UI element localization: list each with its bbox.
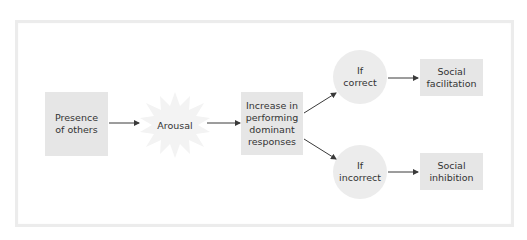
node-presence-line-1: Presence	[55, 112, 98, 124]
node-correct-line-2: correct	[343, 77, 376, 89]
node-increase-line-3: dominant	[249, 124, 294, 136]
node-if-correct: If correct	[333, 50, 387, 104]
node-inhibition-line-2: inhibition	[429, 172, 473, 184]
node-incorrect-line-2: incorrect	[339, 172, 381, 184]
node-increase-line-4: responses	[248, 136, 296, 148]
node-increase-line-2: performing	[246, 112, 299, 124]
node-arousal-label: Arousal	[157, 120, 192, 131]
node-increase-dominant-responses: Increase in performing dominant response…	[241, 92, 303, 155]
node-increase-line-1: Increase in	[246, 100, 298, 112]
node-facilitation-line-1: Social	[437, 66, 465, 78]
node-social-inhibition: Social inhibition	[420, 153, 483, 190]
node-incorrect-line-1: If	[357, 160, 363, 172]
node-correct-line-1: If	[357, 65, 363, 77]
node-inhibition-line-1: Social	[437, 160, 465, 172]
node-facilitation-line-2: facilitation	[426, 78, 476, 90]
node-presence-of-others: Presence of others	[45, 92, 108, 156]
node-presence-line-2: of others	[55, 124, 97, 136]
node-if-incorrect: If incorrect	[333, 145, 387, 199]
node-arousal: Arousal	[138, 90, 212, 160]
node-social-facilitation: Social facilitation	[420, 59, 483, 96]
